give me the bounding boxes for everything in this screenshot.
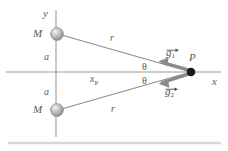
radius-label-upper: r [110, 33, 114, 43]
vector-g1-label: g1 [166, 47, 175, 60]
point-p-label: P [189, 52, 196, 63]
mass-sphere-upper [51, 28, 64, 41]
distance-label-upper: a [44, 52, 49, 62]
x-axis-label: x [212, 76, 217, 87]
distance-label-lower: a [44, 87, 49, 97]
y-axis-label: y [43, 8, 48, 19]
vector-g2-label: g2 [165, 86, 174, 99]
vector-g1-subscript: 1 [172, 52, 176, 60]
mass-label-lower: M [33, 104, 42, 115]
mass-label-upper: M [33, 28, 42, 39]
vector-g2-symbol: g [165, 86, 171, 97]
vector-arrow-overbar-icon [165, 86, 178, 91]
x-p-distance-label: xP [90, 74, 98, 87]
diagram-canvas [0, 0, 228, 151]
angle-label-upper: θ [142, 62, 147, 72]
x-p-distance-subscript: P [94, 79, 98, 87]
radius-label-lower: r [111, 104, 115, 114]
angle-label-lower: θ [142, 76, 147, 86]
vector-g1-symbol: g [166, 47, 172, 58]
vector-arrow-overbar-icon [166, 47, 179, 52]
point-p-marker [187, 68, 196, 77]
vector-g2-subscript: 2 [171, 91, 175, 99]
gravity-field-diagram: y x M M a a r r θ θ xP P g1 g2 [0, 0, 228, 151]
mass-sphere-lower [51, 104, 64, 117]
